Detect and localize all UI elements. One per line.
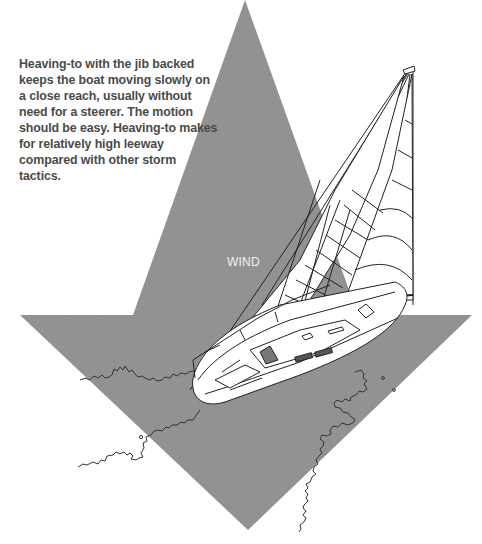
caption-text: Heaving-to with the jib backed keeps the… <box>19 56 219 184</box>
wind-label: WIND <box>227 255 260 269</box>
